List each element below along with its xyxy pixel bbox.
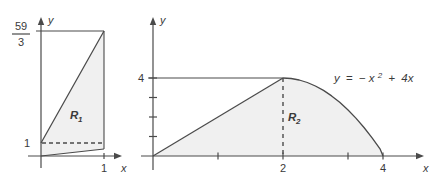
right-y-axis-label: y xyxy=(159,14,167,26)
curve-equation-term1-exponent: 2 xyxy=(377,71,383,80)
right-x-axis-arrowhead xyxy=(416,153,424,159)
right-shaded-region xyxy=(153,78,383,156)
left-shaded-region xyxy=(41,31,104,156)
left-y-axis-label: y xyxy=(47,14,55,26)
left-x-tick-label-1: 1 xyxy=(101,162,107,174)
right-region-label-subscript: 2 xyxy=(295,117,301,126)
right-plot: 4 2 4 y x R 2 y = − x 2 + 4x xyxy=(138,14,429,174)
left-y-top-fraction-numerator: 59 xyxy=(15,20,27,32)
right-x-axis-label: x xyxy=(422,162,429,174)
curve-equation-term2-op: + xyxy=(388,72,395,84)
curve-equation-label: y = − x 2 + 4x xyxy=(333,68,415,84)
right-y-tick-label-4: 4 xyxy=(138,72,144,84)
left-y-tick-label-1: 1 xyxy=(24,137,30,149)
curve-equation-text: y = − x 2 + 4x xyxy=(333,68,415,84)
curve-equation-term2: 4x xyxy=(401,72,414,84)
left-plot: 59 3 1 1 y x R 1 xyxy=(12,14,127,174)
left-y-axis-arrowhead xyxy=(38,17,44,25)
left-x-axis-label: x xyxy=(120,162,127,174)
right-x-tick-label-4: 4 xyxy=(380,162,386,174)
curve-equation-equals: = xyxy=(346,72,353,84)
curve-equation-term1-sign: − xyxy=(359,72,366,84)
left-y-top-fraction-label: 59 3 xyxy=(12,20,30,48)
left-x-axis-arrowhead xyxy=(114,153,122,159)
left-y-top-fraction-denominator: 3 xyxy=(18,36,24,48)
right-x-tick-label-2: 2 xyxy=(280,162,286,174)
right-y-axis-arrowhead xyxy=(150,17,156,25)
figure-root: 59 3 1 1 y x R 1 xyxy=(0,0,440,187)
math-figure-svg: 59 3 1 1 y x R 1 xyxy=(0,0,440,187)
left-region-label-subscript: 1 xyxy=(78,115,83,124)
curve-equation-term1-base: x xyxy=(368,72,376,84)
curve-equation-lhs: y xyxy=(333,72,341,84)
